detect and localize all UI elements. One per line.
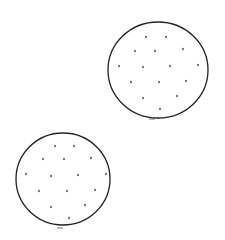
dot	[84, 204, 85, 207]
dot	[118, 65, 119, 68]
dot	[197, 64, 198, 67]
dot	[169, 65, 170, 68]
dot	[159, 108, 160, 111]
dot	[130, 81, 131, 84]
dot	[105, 173, 106, 176]
circle-outline	[108, 22, 208, 118]
dot	[185, 80, 186, 83]
dot	[176, 95, 177, 98]
dot	[90, 157, 91, 160]
dot	[54, 145, 55, 148]
dot	[66, 190, 67, 193]
sketch-canvas	[0, 0, 225, 240]
dot	[68, 217, 69, 220]
dot	[73, 145, 74, 148]
circle-outline	[16, 133, 110, 225]
dotted-circle	[108, 22, 208, 119]
dotted-circle	[16, 133, 110, 228]
dot	[145, 36, 146, 39]
dot	[165, 36, 166, 39]
dot	[182, 48, 183, 51]
dot	[142, 66, 143, 69]
dot	[63, 158, 64, 161]
dot	[158, 81, 159, 84]
dot	[134, 50, 135, 53]
dot	[38, 190, 39, 193]
dot	[94, 189, 95, 192]
dot	[50, 206, 51, 209]
dot	[42, 158, 43, 161]
dot	[50, 175, 51, 178]
dot	[142, 97, 143, 100]
dot	[25, 173, 26, 176]
dot	[77, 174, 78, 177]
dot	[154, 50, 155, 53]
